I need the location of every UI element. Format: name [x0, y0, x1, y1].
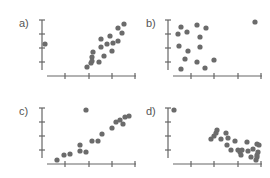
scatter-panels-canvas — [0, 0, 270, 178]
panel-c-label: c) — [19, 105, 28, 117]
data-point — [89, 138, 94, 143]
data-point — [225, 135, 230, 140]
data-point — [61, 152, 66, 157]
data-point — [96, 59, 101, 64]
data-point — [83, 107, 88, 112]
data-point — [250, 146, 255, 151]
data-point — [110, 40, 115, 45]
data-point — [228, 147, 233, 152]
panel-a — [39, 20, 136, 79]
data-point — [203, 25, 208, 30]
data-point — [99, 131, 104, 136]
data-point — [248, 154, 253, 159]
data-point — [89, 58, 94, 63]
panel-d-label: d) — [146, 105, 156, 117]
data-point — [245, 148, 250, 153]
data-point — [202, 65, 207, 70]
data-point — [84, 64, 89, 69]
data-point — [218, 136, 223, 141]
panel-c — [39, 107, 136, 167]
data-point — [184, 29, 189, 34]
data-point — [214, 127, 219, 132]
data-point — [115, 38, 120, 43]
data-point — [115, 25, 120, 30]
panel-b — [165, 19, 262, 79]
data-point — [77, 142, 82, 147]
scatterplot-figure: a) b) c) d) — [0, 0, 270, 178]
data-point — [254, 152, 259, 157]
data-point — [98, 44, 103, 49]
data-point — [256, 142, 261, 147]
data-point — [175, 31, 180, 36]
panel-a-label: a) — [19, 17, 29, 29]
data-point — [126, 113, 131, 118]
data-point — [98, 36, 103, 41]
data-point — [239, 147, 244, 152]
data-point — [77, 148, 82, 153]
data-point — [211, 57, 216, 62]
data-point — [90, 49, 95, 54]
data-point — [176, 43, 181, 48]
data-point — [54, 157, 59, 162]
data-point — [224, 142, 229, 147]
data-point — [104, 41, 109, 46]
data-point — [197, 44, 202, 49]
data-point — [95, 138, 100, 143]
data-point — [121, 21, 126, 26]
panel-d — [165, 107, 262, 167]
data-point — [197, 34, 202, 39]
data-point — [171, 107, 176, 112]
data-point — [238, 152, 243, 157]
data-point — [109, 48, 114, 53]
data-point — [42, 41, 47, 46]
data-point — [232, 138, 237, 143]
data-point — [244, 139, 249, 144]
data-point — [67, 151, 72, 156]
data-point — [178, 24, 183, 29]
data-point — [223, 130, 228, 135]
data-point — [185, 48, 190, 53]
data-point — [119, 30, 124, 35]
data-point — [107, 33, 112, 38]
data-point — [252, 19, 257, 24]
data-point — [109, 125, 114, 130]
data-point — [178, 66, 183, 71]
data-point — [194, 59, 199, 64]
data-point — [194, 22, 199, 27]
data-point — [83, 149, 88, 154]
data-point — [182, 56, 187, 61]
data-point — [120, 121, 125, 126]
data-point — [101, 53, 106, 58]
panel-b-label: b) — [146, 17, 156, 29]
